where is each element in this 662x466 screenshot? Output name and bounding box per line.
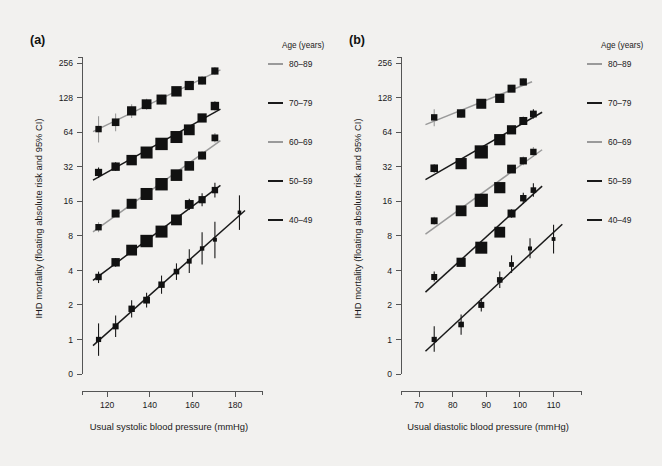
svg-text:128: 128 xyxy=(59,93,74,103)
svg-text:Usual diastolic blood pressure: Usual diastolic blood pressure (mmHg) xyxy=(407,421,569,432)
svg-text:Age (years): Age (years) xyxy=(282,41,325,50)
series-50-59 xyxy=(93,183,220,283)
svg-text:100: 100 xyxy=(513,400,528,410)
svg-text:140: 140 xyxy=(143,400,158,410)
series-40-49 xyxy=(93,195,245,355)
svg-text:50–59: 50–59 xyxy=(608,176,632,186)
svg-text:1: 1 xyxy=(387,335,392,345)
plot-svg-a: 01248163264128256120140160180Usual systo… xyxy=(0,0,331,466)
svg-text:110: 110 xyxy=(547,400,561,410)
svg-text:128: 128 xyxy=(378,93,393,103)
svg-text:90: 90 xyxy=(482,400,492,410)
svg-text:40–49: 40–49 xyxy=(289,215,313,225)
svg-text:180: 180 xyxy=(228,400,243,410)
svg-text:64: 64 xyxy=(382,127,392,137)
svg-text:70: 70 xyxy=(414,400,424,410)
svg-text:8: 8 xyxy=(68,231,73,241)
svg-text:16: 16 xyxy=(63,196,73,206)
svg-text:16: 16 xyxy=(382,196,392,206)
svg-text:60–69: 60–69 xyxy=(608,137,632,147)
series-40-49 xyxy=(425,224,562,352)
svg-text:40–49: 40–49 xyxy=(608,215,632,225)
svg-text:32: 32 xyxy=(382,162,392,172)
svg-text:60–69: 60–69 xyxy=(289,137,313,147)
series-70-79 xyxy=(93,102,220,180)
svg-text:0: 0 xyxy=(68,369,73,379)
legend: Age (years)80–8970–7960–6950–5940–49 xyxy=(268,41,325,225)
svg-text:256: 256 xyxy=(59,58,74,68)
svg-text:Usual systolic blood pressure: Usual systolic blood pressure (mmHg) xyxy=(90,421,248,432)
svg-text:2: 2 xyxy=(68,300,73,310)
svg-text:80–89: 80–89 xyxy=(289,59,313,69)
series-80-89 xyxy=(425,78,532,126)
legend: Age (years)80–8970–7960–6950–5940–49 xyxy=(587,41,644,225)
svg-text:120: 120 xyxy=(100,400,115,410)
svg-text:70–79: 70–79 xyxy=(608,98,632,108)
series-80-89 xyxy=(93,67,220,142)
plot-svg-b: 01248163264128256708090100110Usual diast… xyxy=(331,0,662,466)
svg-text:8: 8 xyxy=(387,231,392,241)
svg-text:64: 64 xyxy=(63,127,73,137)
svg-text:1: 1 xyxy=(68,335,73,345)
svg-text:256: 256 xyxy=(378,58,393,68)
chart-panel-b: (b) 01248163264128256708090100110Usual d… xyxy=(331,0,662,466)
svg-text:80: 80 xyxy=(448,400,458,410)
svg-text:Age (years): Age (years) xyxy=(601,41,644,50)
series-70-79 xyxy=(425,109,542,179)
svg-text:4: 4 xyxy=(68,266,73,276)
svg-text:IHD mortality (floating absolu: IHD mortality (floating absolute risk an… xyxy=(33,118,44,318)
svg-text:32: 32 xyxy=(63,162,73,172)
svg-text:80–89: 80–89 xyxy=(608,59,632,69)
svg-text:70–79: 70–79 xyxy=(289,98,313,108)
svg-text:160: 160 xyxy=(185,400,200,410)
series-60-69 xyxy=(425,147,542,234)
svg-text:IHD mortality (floating absolu: IHD mortality (floating absolute risk an… xyxy=(352,118,363,318)
figure-root: (a) 01248163264128256120140160180Usual s… xyxy=(0,0,662,466)
svg-text:2: 2 xyxy=(387,300,392,310)
svg-text:0: 0 xyxy=(387,369,392,379)
svg-text:50–59: 50–59 xyxy=(289,176,313,186)
svg-text:4: 4 xyxy=(387,266,392,276)
chart-panel-a: (a) 01248163264128256120140160180Usual s… xyxy=(0,0,331,466)
